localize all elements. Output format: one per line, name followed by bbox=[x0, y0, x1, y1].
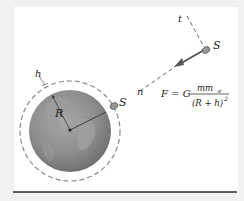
formula-numerator-sub: e bbox=[218, 87, 222, 94]
formula-denominator: (R + h) bbox=[192, 98, 223, 108]
tangent-axis bbox=[187, 16, 204, 47]
label-R: R bbox=[54, 107, 63, 120]
label-h: h bbox=[35, 68, 41, 79]
gravity-formula: F = G mm e (R + h) 2 bbox=[160, 83, 229, 108]
satellite-far-icon bbox=[201, 46, 211, 55]
satellite-icon bbox=[109, 102, 119, 111]
formula-lhs: F = G bbox=[160, 88, 191, 99]
label-S-far: S bbox=[213, 39, 221, 52]
formula-numerator: mm bbox=[197, 83, 213, 93]
label-t: t bbox=[178, 13, 183, 24]
force-arrowhead bbox=[174, 58, 184, 67]
label-S-orbit: S bbox=[119, 96, 127, 109]
orbit-diagram: t S n S h R F = G mm e (R + h) 2 bbox=[0, 0, 244, 201]
formula-denominator-sup: 2 bbox=[223, 95, 228, 102]
label-n: n bbox=[137, 86, 143, 97]
